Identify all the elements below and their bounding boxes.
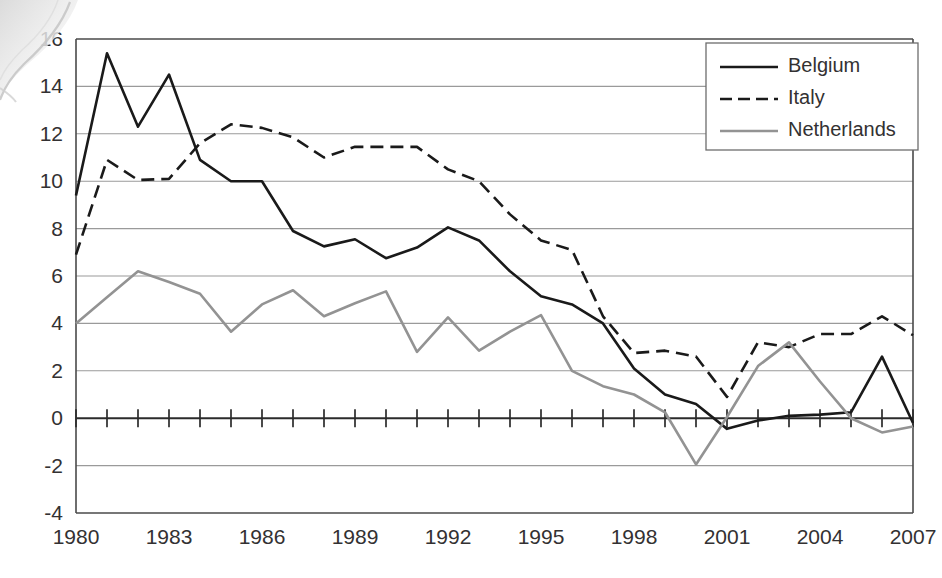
y-axis-tick-label: 4 [51, 311, 63, 334]
x-axis-tick-label: 1992 [425, 525, 472, 548]
chart-legend: BelgiumItalyNetherlands [706, 43, 918, 150]
y-axis-tick-label: 6 [51, 264, 63, 287]
y-axis-tick-label: -4 [44, 501, 63, 524]
chart-canvas: -4-20246810121416 1980198319861989199219… [0, 0, 942, 578]
y-axis-tick-label: 16 [40, 27, 63, 50]
y-axis-tick-label: 0 [51, 406, 63, 429]
legend-label-belgium: Belgium [788, 54, 860, 76]
x-axis-tick-labels: 1980198319861989199219951998200120042007 [53, 525, 937, 548]
y-axis-tick-label: -2 [44, 454, 63, 477]
legend-label-italy: Italy [788, 86, 825, 108]
y-axis-tick-label: 14 [40, 74, 64, 97]
x-axis-tick-label: 2004 [797, 525, 844, 548]
x-axis-tick-label: 1983 [146, 525, 193, 548]
x-axis-tick-label: 1980 [53, 525, 100, 548]
y-axis-tick-label: 2 [51, 359, 63, 382]
x-axis-tick-label: 1989 [332, 525, 379, 548]
x-axis-tick-label: 2007 [890, 525, 937, 548]
series-line-italy [76, 124, 913, 397]
x-axis-tick-label: 1986 [239, 525, 286, 548]
y-axis-tick-labels: -4-20246810121416 [40, 27, 64, 524]
y-axis-tick-label: 10 [40, 169, 63, 192]
legend-label-netherlands: Netherlands [788, 118, 896, 140]
x-axis-tick-label: 1998 [611, 525, 658, 548]
series-line-netherlands [76, 271, 913, 464]
x-axis-tick-label: 1995 [518, 525, 565, 548]
y-axis-tick-label: 12 [40, 122, 63, 145]
line-chart: -4-20246810121416 1980198319861989199219… [0, 0, 942, 578]
y-axis-tick-label: 8 [51, 217, 63, 240]
x-axis-tick-label: 2001 [704, 525, 751, 548]
